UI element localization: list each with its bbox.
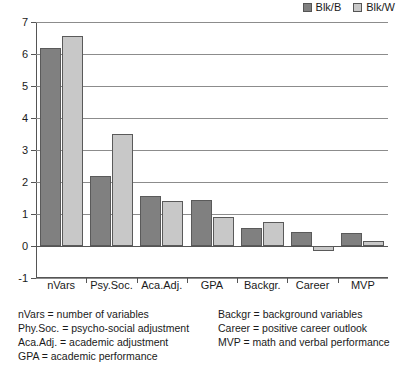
y-tick-label-3: 3	[22, 145, 28, 156]
y-tick-label-5: 5	[22, 81, 28, 92]
y-tick-label-6: 6	[22, 49, 28, 60]
y-tick-label-4: 4	[22, 113, 28, 124]
y-tick-label-0: 0	[22, 241, 28, 252]
bar-psy-soc-blk-w	[112, 134, 133, 246]
legend-label-blk-b: Blk/B	[316, 2, 342, 13]
x-axis-label-gpa: GPA	[201, 280, 223, 291]
footnote-left-line-2: Phy.Soc. = psycho-social adjustment	[18, 322, 218, 334]
bar-psy-soc-blk-b	[90, 176, 111, 246]
x-axis-label-mvp: MVP	[351, 280, 375, 291]
footnote-left-line-4: GPA = academic performance	[18, 350, 218, 362]
legend-label-blk-w: Blk/W	[366, 2, 395, 13]
bar-career-blk-b	[291, 232, 312, 246]
y-tick-label-1: 1	[22, 209, 28, 220]
legend-entry-blk-w: Blk/W	[353, 2, 395, 13]
legend-entry-blk-b: Blk/B	[303, 2, 342, 13]
bar-backgr-blk-b	[241, 228, 262, 246]
bar-chart: Blk/B Blk/W 76543210-1 nVarsPsy.Soc.Aca.…	[0, 0, 405, 366]
bar-gpa-blk-w	[213, 217, 234, 246]
footnote-right-line-2: Career = positive career outlook	[218, 322, 396, 334]
bars-layer	[36, 22, 388, 278]
legend-swatch-blk-w	[353, 3, 362, 12]
y-tick-mark--1	[31, 278, 36, 279]
footnote-legend: nVars = number of variablesPhy.Soc. = ps…	[18, 308, 396, 362]
footnote-column-left: nVars = number of variablesPhy.Soc. = ps…	[18, 308, 218, 362]
footnote-left-line-3: Aca.Adj. = academic adjustment	[18, 336, 218, 348]
bar-career-blk-w	[313, 246, 334, 251]
chart-legend: Blk/B Blk/W	[303, 2, 395, 13]
bar-aca-adj-blk-b	[140, 196, 161, 246]
bar-nvars-blk-w	[62, 36, 83, 246]
legend-swatch-blk-b	[303, 3, 312, 12]
x-axis-label-backgr: Backgr.	[244, 280, 281, 291]
plot-area: 76543210-1	[36, 22, 388, 278]
bar-backgr-blk-w	[263, 222, 284, 246]
x-axis-label-nvars: nVars	[47, 280, 75, 291]
y-tick-label--1: -1	[18, 273, 28, 284]
x-axis-label-psy-soc: Psy.Soc.	[90, 280, 133, 291]
bar-mvp-blk-w	[363, 241, 384, 246]
bar-mvp-blk-b	[341, 233, 362, 246]
bar-nvars-blk-b	[40, 48, 61, 246]
footnote-left-line-1: nVars = number of variables	[18, 308, 218, 320]
x-axis-label-career: Career	[296, 280, 330, 291]
bar-aca-adj-blk-w	[162, 201, 183, 246]
footnote-column-right: Backgr = background variablesCareer = po…	[218, 308, 396, 362]
x-axis-label-aca-adj: Aca.Adj.	[141, 280, 182, 291]
x-axis-category-labels: nVarsPsy.Soc.Aca.Adj.GPABackgr.CareerMVP	[36, 280, 388, 296]
y-tick-label-7: 7	[22, 17, 28, 28]
footnote-right-line-1: Backgr = background variables	[218, 308, 396, 320]
y-tick-label-2: 2	[22, 177, 28, 188]
bar-gpa-blk-b	[191, 200, 212, 246]
footnote-right-line-3: MVP = math and verbal performance	[218, 336, 396, 348]
